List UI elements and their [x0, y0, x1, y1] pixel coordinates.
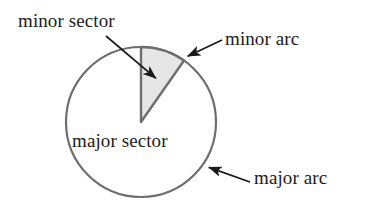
label-minor-sector: minor sector	[18, 11, 115, 30]
minor-arc-pointer-arrow	[188, 40, 222, 56]
circle-sector-diagram: minor sector minor arc major sector majo…	[0, 0, 365, 214]
label-major-sector: major sector	[72, 131, 168, 150]
major-arc-pointer-arrow	[209, 167, 250, 182]
label-minor-arc: minor arc	[225, 29, 299, 48]
label-major-arc: major arc	[254, 168, 327, 187]
